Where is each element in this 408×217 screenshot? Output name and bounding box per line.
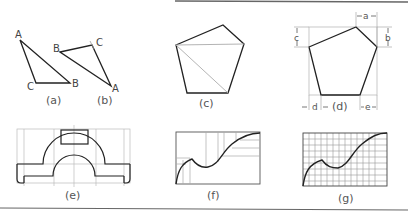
caption-b: (b) [97,94,113,107]
vertex-label-b-B: B [53,43,60,54]
dimension-label-e: e [365,102,371,112]
dimension-label-d: d [312,102,318,112]
vertex-label-a-B: B [72,78,79,89]
caption-e: (e) [65,189,80,202]
technical-drawing-figure: A B C (a) B C A (b) (c) a b [0,0,408,217]
vertex-label-b-C: C [96,37,103,48]
caption-a: (a) [46,94,61,107]
panel-b-triangle: B C A (b) [53,37,119,107]
vertex-label-b-A: A [112,83,119,94]
panel-g-curve-grid: (g) [303,133,387,205]
panel-a-triangle: A B C (a) [15,29,79,107]
bottom-separator-line [0,208,408,210]
vertex-label-a-A: A [15,29,22,40]
caption-d: (d) [332,100,348,113]
panel-e-arch: (e) [17,125,130,202]
dimension-label-b: b [385,33,391,43]
caption-c: (c) [199,97,214,110]
panel-c-pentagon: (c) [176,25,244,110]
dimension-label-c: c [294,33,299,43]
panel-d-pentagon: a b c d e (d) [294,11,392,113]
panel-f-curve: (f) [176,132,260,202]
top-border-line [175,1,408,2]
caption-f: (f) [207,189,219,202]
vertex-label-a-C: C [27,81,34,92]
dimension-label-a: a [363,11,369,21]
caption-g: (g) [338,192,354,205]
